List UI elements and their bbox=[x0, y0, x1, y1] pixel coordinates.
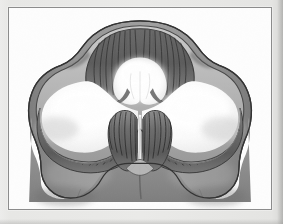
page-edge-shadow-right bbox=[277, 0, 283, 224]
illustration-plate bbox=[8, 7, 272, 210]
screenshot-page bbox=[0, 0, 283, 224]
cerebellum-cross-section-figure bbox=[9, 8, 271, 209]
page-edge-shadow-bottom bbox=[0, 219, 283, 224]
figure-container bbox=[9, 8, 271, 209]
paper-grain bbox=[9, 8, 270, 209]
